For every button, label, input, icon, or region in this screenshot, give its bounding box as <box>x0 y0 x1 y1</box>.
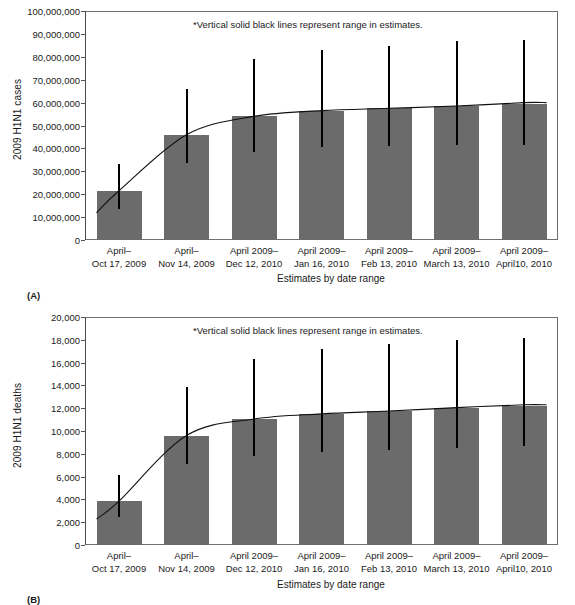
range-line <box>321 50 323 147</box>
x-axis-tick-label-line: April10, 2010 <box>490 563 558 576</box>
range-line <box>253 359 255 456</box>
figure-panel-a: 2009 H1N1 cases 010,000,00020,000,00030,… <box>0 0 575 300</box>
x-axis-label-a: Estimates by date range <box>277 273 385 284</box>
x-axis-tick-label-line: Nov 14, 2009 <box>153 563 221 576</box>
x-axis-tick-label-line: Dec 12, 2010 <box>220 258 288 271</box>
x-axis-tick-label-line: Feb 13, 2010 <box>355 563 423 576</box>
range-line <box>523 338 525 447</box>
y-axis-tick-mark <box>81 431 85 432</box>
y-axis-tick-label: 16,000 <box>51 357 80 368</box>
range-line <box>118 475 120 517</box>
x-axis-tick-label-line: April 2009– <box>288 550 356 563</box>
y-axis-tick-mark <box>81 103 85 104</box>
y-axis-tick-label: 0 <box>75 235 80 246</box>
y-axis-tick-mark <box>81 57 85 58</box>
range-line <box>523 40 525 145</box>
range-line <box>321 349 323 452</box>
y-axis-tick-label: 100,000,000 <box>27 6 80 17</box>
x-axis-tick-label-line: April 2009– <box>423 550 491 563</box>
y-axis-tick-label: 20,000,000 <box>32 189 80 200</box>
y-axis-tick-mark <box>81 477 85 478</box>
y-axis-label-b: 2009 H1N1 deaths <box>12 383 23 468</box>
y-axis-tick-label: 4,000 <box>56 494 80 505</box>
y-axis-tick-label: 12,000 <box>51 403 80 414</box>
y-axis-tick-mark <box>81 408 85 409</box>
y-axis-tick-label: 30,000,000 <box>32 166 80 177</box>
y-axis-tick-label: 10,000,000 <box>32 212 80 223</box>
y-axis-tick-label: 0 <box>75 540 80 551</box>
range-line <box>456 41 458 145</box>
x-axis-tick-label: April 2009–Jan 16, 2010 <box>288 550 356 575</box>
y-axis-tick-label: 20,000 <box>51 312 80 323</box>
y-axis-tick-label: 40,000,000 <box>32 143 80 154</box>
x-axis-tick-label-line: April– <box>153 550 221 563</box>
y-axis-tick-label: 10,000 <box>51 426 80 437</box>
y-axis-tick-mark <box>81 34 85 35</box>
x-axis-tick-label: April 2009–Feb 13, 2010 <box>355 245 423 270</box>
x-axis-tick-label-line: April 2009– <box>355 245 423 258</box>
x-axis-tick-label-line: Dec 12, 2010 <box>220 563 288 576</box>
y-axis-tick-label: 50,000,000 <box>32 120 80 131</box>
y-axis-tick-mark <box>81 148 85 149</box>
y-axis-tick-mark <box>81 171 85 172</box>
x-axis-tick-label: April 2009–March 13, 2010 <box>423 245 491 270</box>
x-axis-tick-label-line: April 2009– <box>355 550 423 563</box>
y-axis-tick-mark <box>81 11 85 12</box>
panel-letter-b: (B) <box>27 594 40 605</box>
y-axis-tick-mark <box>81 499 85 500</box>
chart-annotation-b: *Vertical solid black lines represent ra… <box>193 325 423 336</box>
x-axis-tick-label-line: Nov 14, 2009 <box>153 258 221 271</box>
x-axis-tick-label-line: April 2009– <box>220 550 288 563</box>
x-axis-tick-label: April 2009–March 13, 2010 <box>423 550 491 575</box>
y-axis-tick-mark <box>81 317 85 318</box>
x-axis-tick-label-line: April 2009– <box>423 245 491 258</box>
range-line <box>456 340 458 448</box>
y-axis-tick-mark <box>81 126 85 127</box>
y-axis-tick-mark <box>81 340 85 341</box>
x-axis-tick-label-line: Oct 17, 2009 <box>85 258 153 271</box>
x-axis-tick-label-line: Jan 16, 2010 <box>288 258 356 271</box>
x-axis-tick-label: April–Oct 17, 2009 <box>85 550 153 575</box>
y-axis-tick-mark <box>81 80 85 81</box>
y-axis-label-a: 2009 H1N1 cases <box>12 79 23 160</box>
y-axis-tick-label: 90,000,000 <box>32 28 80 39</box>
x-axis-tick-label-line: April 2009– <box>220 245 288 258</box>
x-axis-tick-label-line: April 2009– <box>490 550 558 563</box>
y-axis-tick-mark <box>81 522 85 523</box>
y-axis-tick-label: 14,000 <box>51 380 80 391</box>
y-axis-tick-mark <box>81 385 85 386</box>
x-axis-tick-label: April–Oct 17, 2009 <box>85 245 153 270</box>
x-axis-tick-label: April 2009–Jan 16, 2010 <box>288 245 356 270</box>
range-line <box>388 344 390 450</box>
range-line <box>118 164 120 209</box>
y-axis-tick-mark <box>81 194 85 195</box>
x-axis-tick-label: April–Nov 14, 2009 <box>153 245 221 270</box>
y-axis-tick-label: 18,000 <box>51 334 80 345</box>
x-axis-tick-label: April–Nov 14, 2009 <box>153 550 221 575</box>
x-axis-tick-label-line: April– <box>153 245 221 258</box>
range-line <box>186 89 188 163</box>
x-axis-tick-label: April 2009–Dec 12, 2010 <box>220 550 288 575</box>
chart-annotation-a: *Vertical solid black lines represent ra… <box>193 19 423 30</box>
x-axis-tick-label-line: April 2009– <box>288 245 356 258</box>
y-axis-tick-label: 6,000 <box>56 471 80 482</box>
x-axis-tick-label-line: April– <box>85 245 153 258</box>
range-line <box>388 46 390 146</box>
y-axis-tick-mark <box>81 363 85 364</box>
y-axis-tick-label: 2,000 <box>56 517 80 528</box>
x-axis-tick-label-line: Jan 16, 2010 <box>288 563 356 576</box>
range-line <box>253 59 255 152</box>
x-axis-tick-label-line: April– <box>85 550 153 563</box>
x-axis-label-b: Estimates by date range <box>277 579 385 590</box>
x-axis-tick-label: April 2009–Dec 12, 2010 <box>220 245 288 270</box>
x-axis-tick-label-line: March 13, 2010 <box>423 258 491 271</box>
y-axis-tick-mark <box>81 545 85 546</box>
range-line <box>186 387 188 465</box>
y-axis-tick-label: 8,000 <box>56 448 80 459</box>
x-axis-tick-label: April 2009–April10, 2010 <box>490 245 558 270</box>
x-axis-tick-label-line: April10, 2010 <box>490 258 558 271</box>
x-axis-tick-label: April 2009–April10, 2010 <box>490 550 558 575</box>
y-axis-tick-mark <box>81 454 85 455</box>
y-axis-line-b <box>85 317 86 545</box>
x-axis-tick-label-line: Oct 17, 2009 <box>85 563 153 576</box>
